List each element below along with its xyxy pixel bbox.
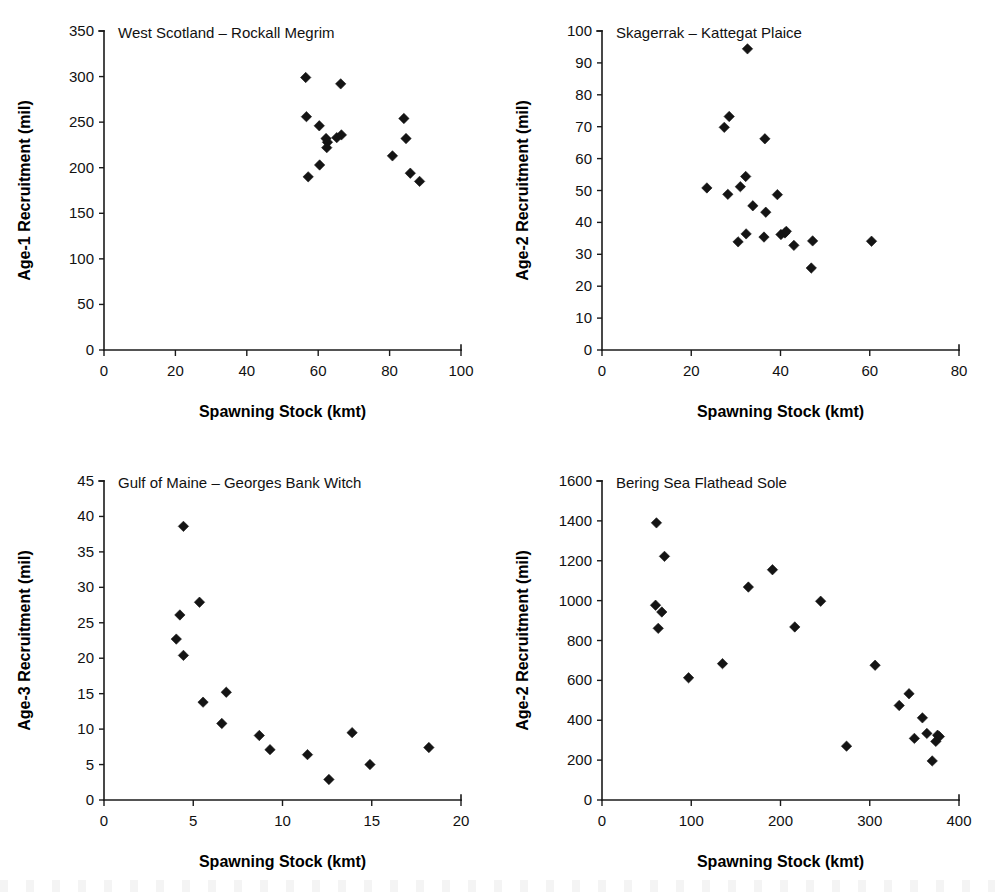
data-point-marker <box>301 72 311 82</box>
data-point-marker <box>917 713 927 723</box>
data-point-marker <box>806 263 816 273</box>
y-tick-label: 40 <box>575 213 592 230</box>
y-tick-label: 0 <box>86 791 94 808</box>
data-point-marker <box>909 733 919 743</box>
data-point-marker <box>735 181 745 191</box>
data-point-marker <box>742 44 752 54</box>
data-point-marker <box>760 134 770 144</box>
y-tick-label: 350 <box>69 22 94 39</box>
data-point-marker <box>789 240 799 250</box>
x-axis-title: Spawning Stock (kmt) <box>697 853 864 870</box>
data-point-marker <box>772 189 782 199</box>
data-point-marker <box>761 207 771 217</box>
data-point-marker <box>178 521 188 531</box>
panel-gulf-of-maine-georges-bank-witch: 05101520253035404505101520Gulf of Maine … <box>0 450 497 892</box>
data-point-marker <box>815 596 825 606</box>
data-point-marker <box>807 236 817 246</box>
data-point-marker <box>303 172 313 182</box>
y-tick-label: 70 <box>575 118 592 135</box>
data-point-marker <box>702 183 712 193</box>
y-tick-label: 250 <box>69 113 94 130</box>
data-point-marker <box>314 121 324 131</box>
data-point-marker <box>405 168 415 178</box>
data-point-marker <box>866 236 876 246</box>
plot-area: 0102030405060708090100020406080Skagerrak… <box>514 22 967 420</box>
data-point-marker <box>841 741 851 751</box>
data-point-marker <box>790 622 800 632</box>
x-tick-label: 100 <box>679 812 704 829</box>
data-point-marker <box>719 122 729 132</box>
data-point-marker <box>927 756 937 766</box>
y-tick-label: 1600 <box>559 472 592 489</box>
plot-area: 050100150200250300350020406080100West Sc… <box>16 22 474 420</box>
data-point-marker <box>399 113 409 123</box>
data-point-marker <box>743 582 753 592</box>
y-tick-label: 600 <box>567 671 592 688</box>
data-points <box>702 44 877 274</box>
data-point-marker <box>659 551 669 561</box>
y-tick-label: 100 <box>567 22 592 39</box>
y-tick-label: 150 <box>69 204 94 221</box>
y-tick-label: 300 <box>69 68 94 85</box>
y-tick-label: 0 <box>584 791 592 808</box>
plot-area: 05101520253035404505101520Gulf of Maine … <box>16 472 469 870</box>
x-tick-label: 0 <box>100 812 108 829</box>
x-tick-label: 0 <box>598 362 606 379</box>
y-tick-label: 90 <box>575 54 592 71</box>
data-point-marker <box>198 697 208 707</box>
y-tick-label: 10 <box>77 720 94 737</box>
data-point-marker <box>740 171 750 181</box>
x-tick-label: 200 <box>768 812 793 829</box>
x-tick-label: 5 <box>189 812 197 829</box>
y-tick-label: 25 <box>77 614 94 631</box>
y-tick-label: 800 <box>567 632 592 649</box>
x-tick-label: 60 <box>310 362 327 379</box>
data-point-marker <box>922 728 932 738</box>
y-tick-label: 200 <box>567 751 592 768</box>
data-point-marker <box>904 689 914 699</box>
x-tick-label: 10 <box>274 812 291 829</box>
scatter-plot-3: 05101520253035404505101520Gulf of Maine … <box>0 450 497 892</box>
data-point-marker <box>175 610 185 620</box>
data-point-marker <box>335 79 345 89</box>
x-tick-label: 80 <box>951 362 968 379</box>
y-tick-label: 45 <box>77 472 94 489</box>
data-point-marker <box>324 774 334 784</box>
x-axis-title: Spawning Stock (kmt) <box>199 403 366 420</box>
y-tick-label: 50 <box>575 182 592 199</box>
data-point-marker <box>178 650 188 660</box>
data-point-marker <box>171 634 181 644</box>
data-point-marker <box>424 742 434 752</box>
panel-bering-sea-flathead-sole: 0200400600800100012001400160001002003004… <box>498 450 995 892</box>
y-tick-label: 0 <box>584 341 592 358</box>
page-edge-artifact <box>0 880 995 892</box>
panel-title: Gulf of Maine – Georges Bank Witch <box>118 474 361 491</box>
data-point-marker <box>767 565 777 575</box>
data-point-marker <box>870 660 880 670</box>
data-point-marker <box>657 607 667 617</box>
y-tick-label: 5 <box>86 756 94 773</box>
x-tick-label: 0 <box>100 362 108 379</box>
data-point-marker <box>650 600 660 610</box>
data-point-marker <box>254 730 264 740</box>
plot-area: 0200400600800100012001400160001002003004… <box>514 472 972 870</box>
y-tick-label: 1400 <box>559 512 592 529</box>
data-point-marker <box>724 111 734 121</box>
y-tick-label: 35 <box>77 543 94 560</box>
y-tick-label: 1200 <box>559 552 592 569</box>
data-point-marker <box>414 176 424 186</box>
y-tick-label: 20 <box>575 277 592 294</box>
data-point-marker <box>265 744 275 754</box>
data-point-marker <box>347 727 357 737</box>
y-tick-label: 0 <box>86 341 94 358</box>
data-point-marker <box>748 201 758 211</box>
x-tick-label: 60 <box>861 362 878 379</box>
y-tick-label: 20 <box>77 649 94 666</box>
figure-four-panel-stock-recruitment: 050100150200250300350020406080100West Sc… <box>0 0 995 892</box>
data-point-marker <box>741 229 751 239</box>
x-tick-label: 40 <box>238 362 255 379</box>
x-tick-label: 20 <box>453 812 470 829</box>
y-tick-label: 60 <box>575 150 592 167</box>
x-axis-title: Spawning Stock (kmt) <box>697 403 864 420</box>
panel-west-scotland-rockall-megrim: 050100150200250300350020406080100West Sc… <box>0 0 497 446</box>
